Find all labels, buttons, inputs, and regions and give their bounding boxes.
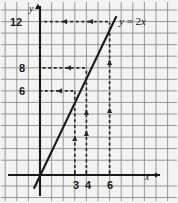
- coordinate-plane-svg: y x 12 8 6 3 4 6 y = 2x: [0, 0, 178, 203]
- x-tick-label-3: 3: [73, 179, 79, 191]
- y-tick-label-6: 6: [19, 85, 25, 97]
- x-tick-label-4: 4: [85, 179, 92, 191]
- equation-label-x: x: [140, 15, 146, 27]
- x-tick-label-6: 6: [107, 179, 113, 191]
- x-axis-label: x: [144, 171, 150, 182]
- y-tick-label-8: 8: [19, 62, 25, 74]
- y-tick-label-12: 12: [10, 16, 22, 28]
- plot-background: [0, 0, 178, 203]
- y-axis-label: y: [28, 3, 34, 14]
- graph-figure: y x 12 8 6 3 4 6 y = 2x: [0, 0, 178, 203]
- equation-label-eq: = 2: [124, 15, 141, 27]
- equation-label: y = 2x: [118, 15, 146, 27]
